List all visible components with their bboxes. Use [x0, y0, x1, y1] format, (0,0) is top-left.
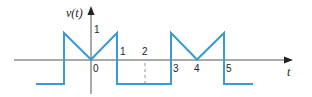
- x-tick-4: 4: [194, 63, 200, 74]
- v-axis-arrow-icon: [88, 6, 95, 15]
- y-tick-1: 1: [94, 24, 100, 35]
- x-tick-3: 3: [173, 63, 179, 74]
- waveform-diagram: v(t) t 1 0 1 2 3 4 5: [0, 0, 312, 97]
- v-axis-label: v(t): [66, 6, 83, 20]
- t-axis-label: t: [287, 65, 291, 79]
- signal-waveform: [36, 33, 253, 84]
- x-tick-1: 1: [120, 46, 126, 57]
- x-tick-2: 2: [142, 46, 148, 57]
- t-axis-arrow-icon: [284, 57, 293, 64]
- x-tick-0: 0: [93, 63, 99, 74]
- x-tick-5: 5: [226, 63, 232, 74]
